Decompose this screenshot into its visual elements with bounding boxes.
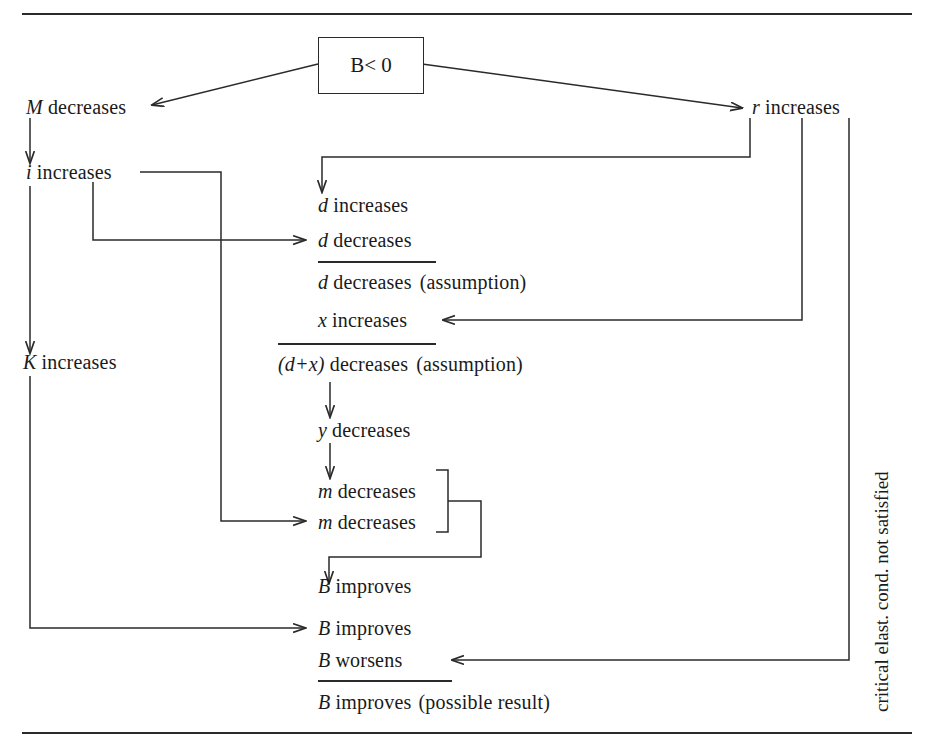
node-m1-decreases: mdecreases	[318, 481, 416, 501]
node-text: improves	[335, 617, 411, 639]
node-text: decreases	[333, 229, 411, 251]
node-dx-decreases-assumption: (d+x)decreases(assumption)	[278, 354, 523, 374]
node-y-decreases: ydecreases	[318, 420, 411, 440]
bracket-m-group	[436, 470, 448, 532]
node-symbol: m	[318, 480, 338, 502]
node-symbol: d	[318, 194, 333, 216]
node-symbol: r	[752, 96, 765, 118]
node-text: decreases	[338, 480, 416, 502]
node-b-worsens: Bworsens	[318, 650, 402, 670]
node-suffix: (assumption)	[412, 271, 527, 293]
node-symbol: B	[318, 649, 335, 671]
edge-i-to-d-decreases	[93, 182, 305, 240]
edge-r-to-d-increases	[322, 118, 750, 192]
node-symbol: i	[26, 161, 37, 183]
node-i-increases: iincreases	[26, 162, 112, 182]
node-symbol: B	[318, 575, 335, 597]
box-symbol: B	[350, 53, 364, 78]
node-symbol: m	[318, 511, 338, 533]
node-b2-improves: Bimproves	[318, 618, 411, 638]
edge-box-to-r	[422, 64, 742, 108]
node-b-result: Bimproves(possible result)	[318, 692, 550, 712]
node-text: increases	[37, 161, 112, 183]
node-text: decreases	[332, 419, 410, 441]
node-r-increases: rincreases	[752, 97, 840, 117]
node-text: decreases	[338, 511, 416, 533]
node-symbol: B	[318, 691, 335, 713]
node-b1-improves: Bimproves	[318, 576, 411, 596]
node-d-increases: dincreases	[318, 195, 408, 215]
node-text: decreases	[48, 96, 126, 118]
node-symbol: x	[318, 309, 332, 331]
node-d-decreases: ddecreases	[318, 230, 412, 250]
node-symbol: (d+x)	[278, 353, 330, 375]
edge-r-to-B-worsens	[452, 118, 849, 660]
side-label-emphasis: not	[871, 539, 892, 563]
node-text: improves	[335, 691, 411, 713]
node-text: decreases	[333, 271, 411, 293]
node-k-increases: Kincreases	[23, 352, 117, 372]
node-text: worsens	[335, 649, 402, 671]
edge-K-to-B-improves	[30, 376, 305, 628]
node-text: increases	[42, 351, 117, 373]
node-text: decreases	[330, 353, 408, 375]
node-m-decreases: Mdecreases	[26, 97, 126, 117]
figure-canvas: B< 0 Mdecreases rincreases iincreases Ki…	[0, 0, 931, 748]
node-symbol: B	[318, 617, 335, 639]
node-x-increases: xincreases	[318, 310, 407, 330]
node-symbol: d	[318, 229, 333, 251]
node-text: increases	[765, 96, 840, 118]
edge-box-to-M	[152, 64, 318, 105]
node-d-decreases-assumption: ddecreases(assumption)	[318, 272, 526, 292]
node-text: increases	[333, 194, 408, 216]
side-label-suffix: satisfied	[871, 471, 892, 539]
node-symbol: M	[26, 96, 48, 118]
side-label-critical-elasticity: critical elast. cond. not satisfied	[871, 471, 893, 712]
edge-i-to-m2	[140, 172, 305, 521]
node-symbol: K	[23, 351, 42, 373]
node-suffix: (possible result)	[411, 691, 550, 713]
node-text: improves	[335, 575, 411, 597]
side-label-prefix: critical elast. cond.	[871, 564, 892, 712]
box-relation: < 0	[364, 53, 392, 78]
node-symbol: d	[318, 271, 333, 293]
node-text: increases	[332, 309, 407, 331]
node-symbol: y	[318, 419, 332, 441]
node-b-less-than-zero: B< 0	[318, 37, 424, 94]
node-suffix: (assumption)	[408, 353, 523, 375]
node-m2-decreases: mdecreases	[318, 512, 416, 532]
